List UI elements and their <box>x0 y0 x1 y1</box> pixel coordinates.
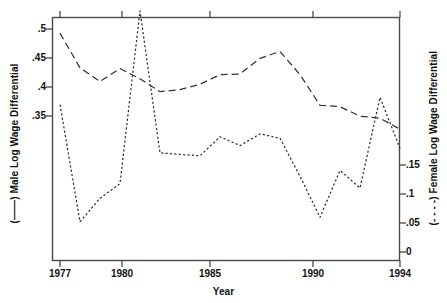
x-tick-marks <box>60 11 400 267</box>
chart-figure: (——) Male Log Wage Differential (- - - -… <box>0 0 447 303</box>
series-line-male <box>60 33 400 129</box>
y-left-tick-marks <box>46 29 53 116</box>
y-right-tick-marks <box>400 165 407 252</box>
plot-frame <box>53 18 400 261</box>
series-line-female <box>60 11 400 222</box>
plot-area <box>0 0 447 303</box>
